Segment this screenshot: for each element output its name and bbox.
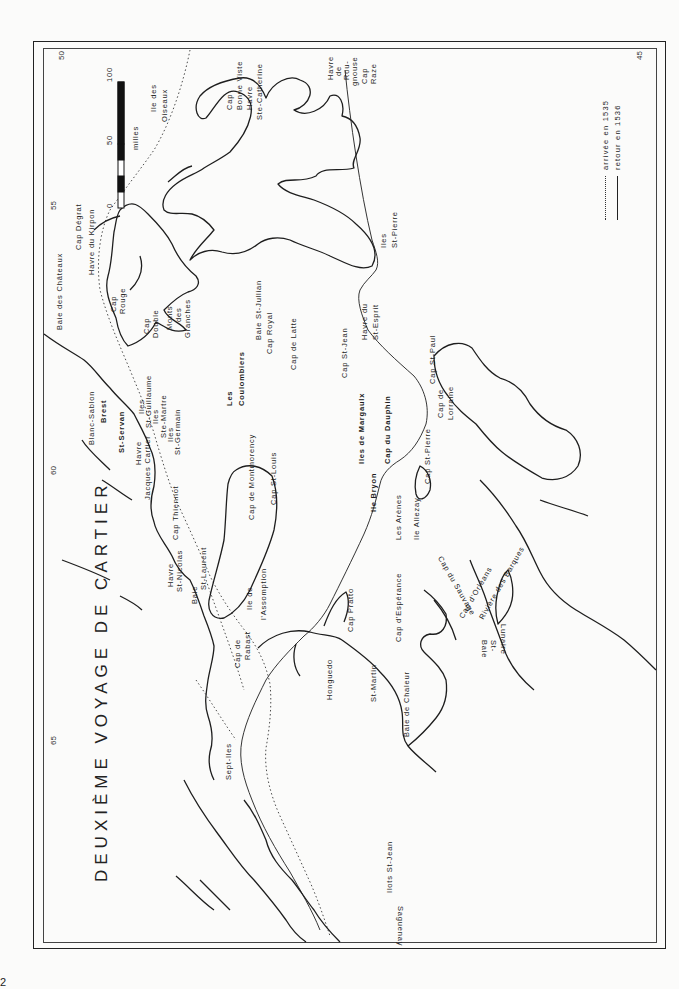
label-havre-du-st-esprit-2: St-Esprit [372, 304, 380, 340]
label-sept-iles: Sept-Iles [225, 743, 233, 780]
label-havre-st-nicolas: Havre [167, 563, 175, 587]
legend-arrival-label: arrivée en 1535 [601, 100, 610, 170]
label-cap-raze-2: Raze [370, 63, 378, 84]
label-cap-desperance: Cap d'Espérance [395, 573, 403, 642]
label-cap-bonne-viste: Cap [226, 94, 234, 110]
label-cap-degrat: Cap Dégrat [75, 204, 83, 250]
label-havre-jacques-cartier-2: Jacques Cartier [144, 435, 152, 500]
label-cap-de-lorraine-2: Lorraine [447, 386, 455, 420]
label-monts-des-granches: Monts [166, 306, 174, 330]
baie-de-chaleur [408, 590, 447, 746]
label-les-coulombiers-2: Coulombiers [238, 351, 246, 406]
labrador-coast [44, 334, 214, 780]
legend-return-label: retour en 1536 [613, 104, 622, 170]
cape-breton [434, 343, 580, 479]
label-cap-double: Cap [143, 318, 151, 334]
dotted-line-symbol [605, 176, 606, 220]
saguenay-river [176, 876, 230, 910]
scale-bar [118, 82, 124, 208]
scale-unit: milles [132, 126, 140, 150]
label-st-servan: St-Servan [118, 411, 126, 453]
scale-mark-50: 50 [106, 135, 114, 145]
scale-mark-0: 0 [106, 203, 114, 208]
label-cap-royal: Cap Royal [266, 312, 274, 354]
label-cap-thiennot: Cap Thiennot [172, 486, 180, 541]
label-cap-st-jean: Cap St-Jean [341, 328, 349, 379]
label-cap-pratto: Cap Pratto [347, 588, 355, 632]
label-ile-bryon: Ile Bryon [370, 473, 378, 512]
label-havre-du-st-esprit: Havre du [361, 303, 369, 340]
label-cap-st-paul: Cap St-Paul [429, 335, 437, 384]
label-les-coulombiers: Les [226, 391, 234, 406]
legend-arrival: arrivée en 1535 [601, 100, 610, 220]
saint-lawrence-north [184, 780, 306, 942]
label-havre-du-kirpon: Havre du Kirpon [88, 209, 96, 275]
label-cap-raze: Cap [361, 68, 369, 84]
label-havre-ste-catherine-2: Ste-Catherine [256, 63, 264, 120]
label-cap-de-montmorency: Cap de Montmorency [248, 434, 256, 520]
label-iles-st-pierre-2: St-Pierre [391, 211, 399, 248]
label-cap-st-louis: Cap St-Louis [270, 452, 278, 505]
longitude-tick-45: 45 [635, 51, 644, 60]
label-baie-st-lunaire: Baie [481, 640, 489, 658]
label-cap-du-dauphin: Cap du Dauphin [384, 395, 392, 464]
label-iles-de-margaulx: Iles de Margaulx [358, 393, 366, 464]
saint-lawrence-south [244, 800, 340, 942]
label-baie-st-lunaire-3: Lunaire [500, 624, 508, 655]
label-monts-des-granches-3: Granches [184, 299, 192, 338]
label-baie-st-jullian: Baie St-Jullian [255, 280, 263, 340]
label-honguedo: Honguedo [326, 659, 334, 700]
label-havre-st-nicolas-2: St-Nicolas [176, 550, 184, 592]
legend-return: retour en 1536 [613, 104, 622, 220]
label-st-martin: St-Martin [370, 664, 378, 702]
label-cap-de-latte: Cap de Latte [290, 317, 298, 370]
label-ile-des-oiseaux-2: Oiseaux [161, 89, 169, 122]
longitude-tick-50: 50 [57, 51, 66, 60]
label-iles-st-germain-2: St-Germain [174, 409, 182, 455]
longitude-tick-65: 65 [49, 736, 58, 745]
solid-line-symbol [617, 176, 618, 220]
label-ilots-st-jean: Ilots St-Jean [386, 841, 394, 893]
label-monts-des-granches-2: des [175, 308, 183, 323]
label-havre-ste-catherine: Havre [246, 86, 254, 110]
label-baie-st-laurent: Baie [191, 586, 199, 604]
label-iles-st-pierre: Iles [380, 233, 388, 248]
longitude-tick-55: 55 [49, 201, 58, 210]
label-cap-de-rabast: Cap de [234, 639, 242, 668]
label-cap-rouge: Cap [110, 296, 118, 312]
label-brest: Brest [100, 400, 108, 423]
label-cap-double-2: Double [152, 309, 160, 338]
longitude-tick-60: 60 [49, 466, 58, 475]
label-cap-de-rabast-2: Rabast [244, 631, 252, 660]
label-les-arenes: Les Arènes [395, 494, 403, 540]
scale-mark-100: 100 [106, 67, 114, 82]
label-havre-jacques-cartier: Havre [135, 441, 143, 465]
label-baie-des-chateaux: Baie des Châteaux [56, 253, 64, 330]
arrival-route-1535 [98, 50, 330, 936]
label-baie-st-lunaire-2: St- [490, 640, 498, 652]
label-havre-de-rougnouse-4: gnouse [351, 57, 359, 86]
label-blanc-sablon: Blanc-Sablon [88, 391, 96, 445]
page-number: 2 [0, 976, 6, 988]
label-ile-de-lassomption-2: l'Assomption [260, 568, 268, 620]
label-ile-allezay: Ile Allezay [413, 497, 421, 540]
map-title: DEUXIÈME VOYAGE DE CARTIER [92, 481, 112, 882]
label-cap-st-pierre: Cap St-Pierre [424, 428, 432, 484]
label-cap-de-lorraine: Cap de [437, 389, 445, 418]
label-baie-st-laurent-2: St-Laurent [200, 547, 208, 590]
label-cap-bonne-viste-2: Bonne Viste [236, 61, 244, 110]
label-ile-des-oiseaux: Ile des [150, 84, 158, 112]
label-baie-de-chaleur: Baie de Chaleur [403, 671, 411, 737]
label-cap-rouge-2: Rouge [119, 288, 127, 314]
label-saguenay: Saguenay [397, 906, 405, 946]
label-ile-de-lassomption: Ile de [246, 587, 254, 610]
newfoundland-coast [163, 78, 375, 268]
